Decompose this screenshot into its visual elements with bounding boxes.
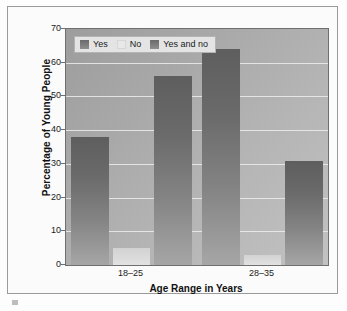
bar-18-25-yes[interactable] <box>71 137 109 265</box>
bar-28-35-no[interactable] <box>244 255 282 265</box>
bar-18-25-yes-and-no[interactable] <box>154 76 192 265</box>
y-tick-label: 70 <box>37 24 61 33</box>
legend-label: No <box>130 40 142 49</box>
legend-item-no[interactable]: No <box>117 40 142 49</box>
plot-area: Yes No Yes and no <box>65 28 329 266</box>
page-artifact-mark <box>12 300 18 305</box>
legend-swatch-icon <box>80 40 89 49</box>
legend: Yes No Yes and no <box>74 36 216 53</box>
bar-28-35-yes[interactable] <box>202 49 240 265</box>
y-tick-label: 50 <box>37 91 61 100</box>
bar-18-25-no[interactable] <box>113 248 151 265</box>
y-tick-label: 30 <box>37 159 61 168</box>
y-tick-label: 20 <box>37 193 61 202</box>
legend-item-yes[interactable]: Yes <box>80 40 108 49</box>
y-tick-label: 60 <box>37 58 61 67</box>
y-tick-label: 10 <box>37 226 61 235</box>
legend-swatch-icon <box>150 40 159 49</box>
bar-28-35-yes-and-no[interactable] <box>285 161 323 266</box>
x-tick-label-28-35: 28–35 <box>196 269 327 278</box>
x-tick-label-18-25: 18–25 <box>65 269 196 278</box>
legend-label: Yes and no <box>163 40 208 49</box>
y-axis-ticks: 70 60 50 40 30 20 10 0 <box>33 28 61 264</box>
y-tick-label: 40 <box>37 125 61 134</box>
legend-swatch-icon <box>117 40 126 49</box>
chart-page: Percentage of Young People 70 60 50 40 3… <box>0 0 347 311</box>
y-tick-label: 0 <box>37 260 61 269</box>
bar-series-group <box>66 29 328 265</box>
x-axis-title: Age Range in Years <box>65 283 327 294</box>
bar-chart: Percentage of Young People 70 60 50 40 3… <box>7 6 338 294</box>
legend-label: Yes <box>93 40 108 49</box>
legend-item-yes-and-no[interactable]: Yes and no <box>150 40 208 49</box>
